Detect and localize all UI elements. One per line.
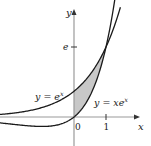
label-xexp: y = xex bbox=[93, 96, 128, 108]
plot-canvas: y e 0 1 x y = ex y = xex bbox=[0, 0, 151, 146]
y-axis-label: y bbox=[65, 7, 72, 18]
y-axis-arrow-icon bbox=[72, 9, 77, 15]
y-tick-label-e: e bbox=[63, 42, 68, 52]
label-exp: y = ex bbox=[34, 90, 64, 102]
x-tick-label-1: 1 bbox=[104, 122, 110, 132]
label-exp-sup: x bbox=[60, 90, 64, 98]
label-xexp-base: y = xe bbox=[93, 97, 125, 108]
label-exp-base: y = e bbox=[34, 91, 60, 102]
x-axis-arrow-icon bbox=[134, 115, 140, 120]
label-xexp-sup: x bbox=[124, 96, 128, 104]
area-between-curves-figure: y e 0 1 x y = ex y = xex bbox=[0, 0, 151, 146]
x-tick-label-0: 0 bbox=[75, 122, 81, 132]
x-axis-label: x bbox=[138, 121, 144, 132]
